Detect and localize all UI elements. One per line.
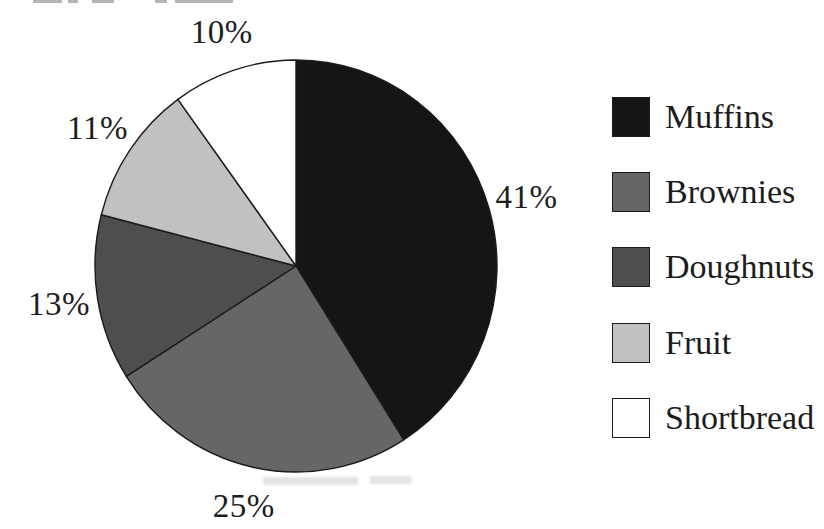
legend-label-shortbread: Shortbread [665, 401, 814, 435]
legend-item-brownies: Brownies [612, 154, 814, 229]
legend-swatch-doughnuts [612, 247, 650, 287]
legend-item-doughnuts: Doughnuts [612, 230, 814, 305]
legend-swatch-fruit [612, 323, 650, 363]
slice-label-muffins: 41% [495, 179, 557, 216]
legend: Muffins Brownies Doughnuts Fruit Shortbr… [612, 79, 814, 455]
legend-label-doughnuts: Doughnuts [665, 250, 814, 284]
legend-swatch-muffins [612, 97, 650, 137]
legend-item-fruit: Fruit [612, 305, 814, 380]
slice-label-brownies: 25% [213, 488, 275, 525]
pie-chart-figure: 41% 25% 13% 11% 10% Muffins Brownies Dou… [0, 0, 824, 529]
slice-label-shortbread: 10% [191, 14, 253, 51]
slice-label-fruit: 11% [67, 109, 128, 146]
slice-label-doughnuts: 13% [28, 286, 90, 323]
legend-swatch-shortbread [612, 398, 650, 438]
legend-item-shortbread: Shortbread [612, 380, 814, 455]
legend-label-muffins: Muffins [665, 100, 774, 134]
legend-label-fruit: Fruit [665, 326, 731, 360]
legend-item-muffins: Muffins [612, 79, 814, 154]
legend-swatch-brownies [612, 172, 650, 212]
legend-label-brownies: Brownies [665, 175, 795, 209]
